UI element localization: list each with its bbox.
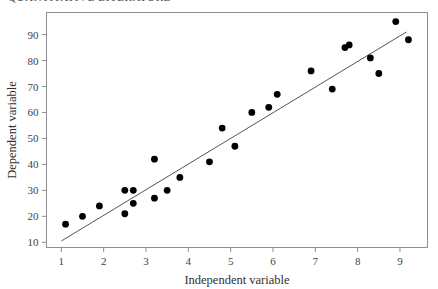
x-tick-label: 6 [270,255,276,267]
y-axis-title: Dependent variable [5,81,19,179]
y-tick-label: 90 [28,29,40,41]
data-point-marker [346,42,353,49]
data-point-marker [130,200,137,207]
data-point-marker [206,158,213,165]
chart-canvas: 123456789 102030405060708090 Independent… [0,0,438,289]
y-tick-label: 70 [28,81,40,93]
y-tick-label: 20 [28,210,40,222]
y-tick-label: 40 [28,158,40,170]
data-point-marker [151,195,158,202]
data-point-marker [329,86,336,93]
data-point-marker [121,187,128,194]
data-point-marker [164,187,171,194]
x-tick-label: 7 [313,255,319,267]
data-point-marker [308,68,315,75]
data-point-marker [62,221,69,228]
x-tick-label: 8 [355,255,361,267]
x-axis-title: Independent variable [184,273,290,287]
data-point-marker [248,109,255,116]
data-point-marker [121,210,128,217]
data-point-marker [219,125,226,132]
y-tick-label: 10 [28,236,40,248]
data-point-marker [265,104,272,111]
x-tick-label: 9 [397,255,403,267]
y-tick-label: 80 [28,55,40,67]
data-point-marker [231,143,238,150]
x-tick-label: 4 [186,255,192,267]
x-tick-label: 1 [59,255,65,267]
data-point-marker [96,203,103,210]
data-point-marker [367,55,374,62]
data-point-marker [375,70,382,77]
data-point-marker [274,91,281,98]
plot-frame [47,13,428,248]
y-tick-label: 30 [28,184,40,196]
x-tick-label: 3 [143,255,149,267]
clipped-page-header: QUANTITATIVE LITERATURE [8,0,171,3]
data-point-marker [176,174,183,181]
x-axis-ticks: 123456789 [59,248,404,267]
x-tick-label: 5 [228,255,234,267]
data-point-marker [405,36,412,43]
x-tick-label: 2 [101,255,107,267]
scatter-plot-figure: QUANTITATIVE LITERATURE 123456789 102030… [0,0,438,289]
y-tick-label: 60 [28,106,40,118]
y-axis-ticks: 102030405060708090 [28,29,47,249]
y-tick-label: 50 [28,132,40,144]
data-point-marker [130,187,137,194]
data-point-marker [79,213,86,220]
data-point-marker [151,156,158,163]
data-point-marker [392,18,399,25]
